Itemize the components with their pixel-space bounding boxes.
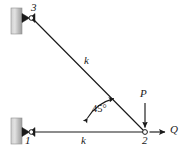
member-horizontal-label: k <box>81 135 86 146</box>
load-P-label: P <box>140 88 147 99</box>
load-Q-label: Q <box>170 124 178 135</box>
node-1-label: 1 <box>25 135 31 146</box>
wall-block-top <box>11 8 22 34</box>
member-diagonal <box>34 20 145 132</box>
support-bottom <box>11 118 35 144</box>
angle-45-label: 45° <box>92 104 107 115</box>
node-3-label: 3 <box>31 2 37 13</box>
node-2-label: 2 <box>142 135 148 146</box>
pin-triangle-top-left <box>22 14 30 23</box>
wall-block-bottom <box>11 118 22 144</box>
member-diagonal-label: k <box>84 55 89 66</box>
hinge-circle-top <box>29 16 34 21</box>
truss-canvas <box>0 0 186 152</box>
truss-figure: 3 1 2 k k P Q 45° <box>0 0 186 152</box>
